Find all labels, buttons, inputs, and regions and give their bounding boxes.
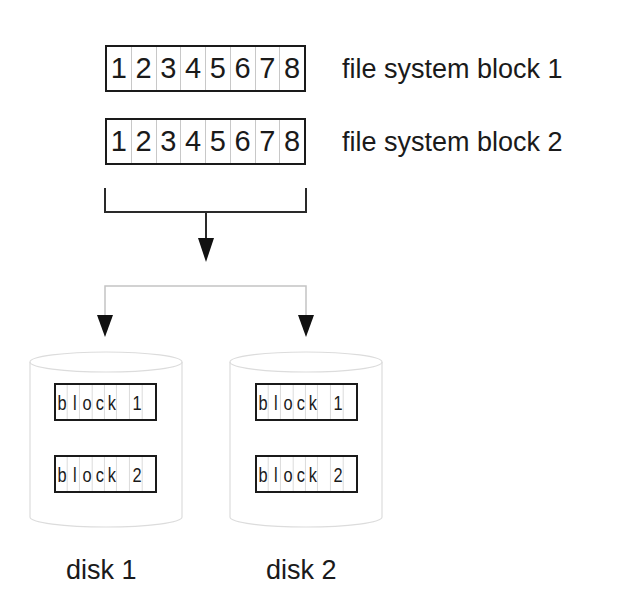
arrow-down-icon	[198, 238, 214, 262]
disk-cell: o	[283, 457, 293, 491]
fs-cell: 8	[280, 47, 304, 90]
disk-cell	[145, 457, 154, 491]
disk-cell: o	[82, 385, 92, 419]
fs-block-1: 1 2 3 4 5 6 7 8	[105, 45, 306, 92]
disk-cell: k	[309, 457, 319, 491]
fs-block-2-label: file system block 2	[342, 129, 563, 156]
disk-cell: k	[108, 385, 118, 419]
arrow-down-icon	[97, 315, 113, 337]
fs-cell: 6	[231, 120, 256, 163]
disk-cell	[321, 457, 331, 491]
fs-cell: 2	[132, 47, 157, 90]
fs-cell: 3	[157, 47, 182, 90]
fs-cell: 2	[132, 120, 157, 163]
disk-cell: l	[271, 457, 281, 491]
disk-cell: l	[70, 457, 80, 491]
disk-cell	[346, 385, 355, 419]
disk-cell: c	[296, 385, 306, 419]
fs-cell: 6	[231, 47, 256, 90]
disk-cell: b	[57, 457, 67, 491]
disk-2-block-1: b l o c k 1	[255, 383, 358, 421]
disk-2-cylinder-icon	[230, 352, 382, 527]
disk-cell: 1	[333, 385, 343, 419]
disk-1-cylinder-icon	[30, 352, 182, 527]
fs-block-2: 1 2 3 4 5 6 7 8	[105, 118, 306, 165]
disk-cell: 1	[132, 385, 142, 419]
disk-cell: c	[95, 457, 105, 491]
split-branch	[97, 286, 314, 337]
disk-cell: b	[57, 385, 67, 419]
disk-2-block-2: b l o c k 2	[255, 455, 358, 493]
disk-cell	[120, 385, 130, 419]
disk-cell: k	[309, 385, 319, 419]
disk-cell: k	[108, 457, 118, 491]
merge-bracket	[105, 188, 306, 262]
fs-cell: 4	[181, 120, 206, 163]
fs-cell: 1	[107, 120, 132, 163]
disk-1-label: disk 1	[66, 557, 137, 584]
fs-cell: 8	[280, 120, 304, 163]
disk-1-block-1: b l o c k 1	[54, 383, 157, 421]
fs-cell: 5	[206, 120, 231, 163]
disk-cell: o	[283, 385, 293, 419]
disk-2-label: disk 2	[266, 557, 337, 584]
disk-cell	[321, 385, 331, 419]
disk-cell: l	[271, 385, 281, 419]
fs-cell: 1	[107, 47, 132, 90]
fs-cell: 7	[256, 47, 281, 90]
disk-cell: b	[258, 385, 268, 419]
connector-graphics	[0, 0, 626, 599]
disk-cell	[145, 385, 154, 419]
disk-cell: l	[70, 385, 80, 419]
fs-cell: 4	[181, 47, 206, 90]
disk-cell: o	[82, 457, 92, 491]
disk-cell: c	[95, 385, 105, 419]
fs-cell: 7	[256, 120, 281, 163]
disk-cell: 2	[132, 457, 142, 491]
fs-block-1-label: file system block 1	[342, 56, 563, 83]
disk-1-block-2: b l o c k 2	[54, 455, 157, 493]
fs-cell: 3	[157, 120, 182, 163]
disk-cell	[120, 457, 130, 491]
disk-cell	[346, 457, 355, 491]
disk-cell: b	[258, 457, 268, 491]
arrow-down-icon	[298, 315, 314, 337]
disk-cell: 2	[333, 457, 343, 491]
fs-cell: 5	[206, 47, 231, 90]
disk-cell: c	[296, 457, 306, 491]
